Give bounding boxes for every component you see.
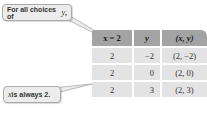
cell-xy: (2, 3) [160, 80, 207, 97]
table-row: 2 0 (2, 0) [92, 63, 207, 80]
cell-xy: (2, −2) [160, 46, 207, 63]
table-row: 2 3 (2, 3) [92, 80, 207, 97]
header-xy: (x, y) [160, 30, 207, 46]
cell-y: 0 [132, 63, 160, 80]
cell-y: 3 [132, 80, 160, 97]
table-header-row: x = 2 y (x, y) [92, 30, 207, 46]
cell-xy: (2, 0) [160, 63, 207, 80]
callout-for-all-y: For all choices of y, [2, 4, 72, 21]
table-row: 2 −2 (2, −2) [92, 46, 207, 63]
xy-table: x = 2 y (x, y) 2 −2 (2, −2) 2 0 (2, 0) 2… [92, 30, 207, 97]
callout-text: For all choices of [7, 6, 60, 20]
cell-y: −2 [132, 46, 160, 63]
header-y: y [132, 30, 160, 46]
callout-x-always-2: x is always 2. [3, 86, 61, 103]
cell-x: 2 [92, 63, 132, 80]
cell-x: 2 [92, 46, 132, 63]
cell-x: 2 [92, 80, 132, 97]
callout-text: is always 2. [12, 91, 51, 98]
header-x: x = 2 [92, 30, 132, 46]
